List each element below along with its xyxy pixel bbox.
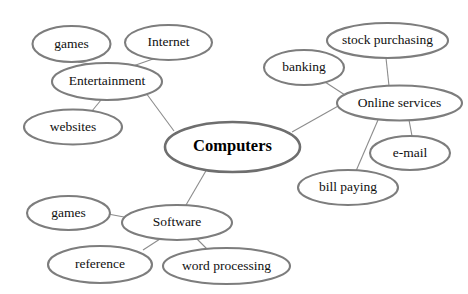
node-bill_paying[interactable]: bill paying <box>298 170 398 205</box>
edge-entertainment-websites <box>92 100 101 111</box>
edge-software-reference <box>143 239 160 250</box>
edge-online-email <box>409 120 412 136</box>
node-label-websites: websites <box>50 119 97 134</box>
edge-software-wordprocessing <box>197 239 207 249</box>
edge-computers-online <box>292 105 340 132</box>
node-entertainment[interactable]: Entertainment <box>52 63 162 100</box>
node-label-computers: Computers <box>193 136 272 155</box>
node-label-stock_purchasing: stock purchasing <box>342 32 433 47</box>
node-label-games_bottom: games <box>51 205 86 220</box>
node-label-software: Software <box>153 214 202 229</box>
node-software[interactable]: Software <box>122 205 232 240</box>
concept-map-graph: gamesInternetEntertainmentwebsitesComput… <box>0 0 468 294</box>
node-computers[interactable]: Computers <box>165 122 300 172</box>
node-online_services[interactable]: Online services <box>337 86 462 121</box>
concept-map-canvas: gamesInternetEntertainmentwebsitesComput… <box>0 0 468 294</box>
node-internet[interactable]: Internet <box>125 25 212 60</box>
node-reference[interactable]: reference <box>48 246 152 283</box>
node-label-email: e-mail <box>393 145 428 160</box>
node-label-entertainment: Entertainment <box>69 73 146 88</box>
edge-computers-entertainment <box>146 93 174 131</box>
edge-computers-software <box>186 169 207 205</box>
node-label-internet: Internet <box>148 34 190 49</box>
node-stock_purchasing[interactable]: stock purchasing <box>327 23 448 58</box>
node-banking[interactable]: banking <box>264 50 344 85</box>
edge-online-stock <box>386 58 389 86</box>
node-games_bottom[interactable]: games <box>27 196 110 230</box>
node-label-games_top: games <box>54 36 89 51</box>
node-layer: gamesInternetEntertainmentwebsitesComput… <box>24 23 462 284</box>
node-websites[interactable]: websites <box>24 110 122 145</box>
node-word_processing[interactable]: word processing <box>163 248 290 284</box>
node-games_top[interactable]: games <box>33 26 111 62</box>
node-label-online_services: Online services <box>358 95 442 110</box>
edge-online-banking <box>325 82 345 95</box>
node-email[interactable]: e-mail <box>370 136 450 170</box>
node-label-reference: reference <box>75 256 125 271</box>
node-label-banking: banking <box>282 59 326 74</box>
node-label-word_processing: word processing <box>182 258 271 273</box>
node-label-bill_paying: bill paying <box>319 179 377 194</box>
